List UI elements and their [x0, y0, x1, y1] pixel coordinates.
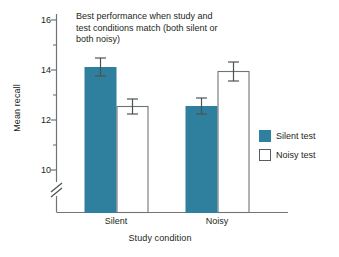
annotation-line-3: both noisy) [76, 34, 246, 46]
y-tick-label-12: 12 [31, 116, 51, 125]
y-tick-label-16: 16 [31, 16, 51, 25]
legend-label-noisy-test: Noisy test [276, 150, 316, 160]
annotation-line-1: Best performance when study and [76, 11, 246, 23]
x-tick-label-silent: Silent [81, 216, 151, 226]
y-tick-labels: 16 14 12 10 [29, 0, 51, 257]
bar-silent-study-noisy-test [117, 107, 148, 213]
axis-break-icon [51, 183, 62, 197]
y-axis-title: Mean recall [12, 68, 22, 148]
chart-annotation: Best performance when study and test con… [76, 11, 246, 46]
bar-silent-study-silent-test [85, 68, 116, 213]
x-tick-label-noisy: Noisy [182, 216, 252, 226]
legend-label-silent-test: Silent test [276, 131, 316, 141]
x-axis-title: Study condition [60, 233, 260, 243]
y-tick-label-14: 14 [31, 66, 51, 75]
legend-item-silent-test: Silent test [259, 128, 316, 143]
legend-swatch-silent-test-icon [259, 130, 271, 142]
bar-noisy-study-silent-test [186, 107, 217, 213]
legend-item-noisy-test: Noisy test [259, 147, 316, 162]
bar-chart-figure: 16 14 12 10 Mean recall Study condition … [0, 0, 339, 257]
legend-swatch-noisy-test-icon [259, 149, 271, 161]
y-tick-label-10: 10 [31, 166, 51, 175]
annotation-line-2: test conditions match (both silent or [76, 23, 246, 35]
chart-legend: Silent test Noisy test [259, 128, 316, 166]
bar-noisy-study-noisy-test [218, 72, 249, 213]
